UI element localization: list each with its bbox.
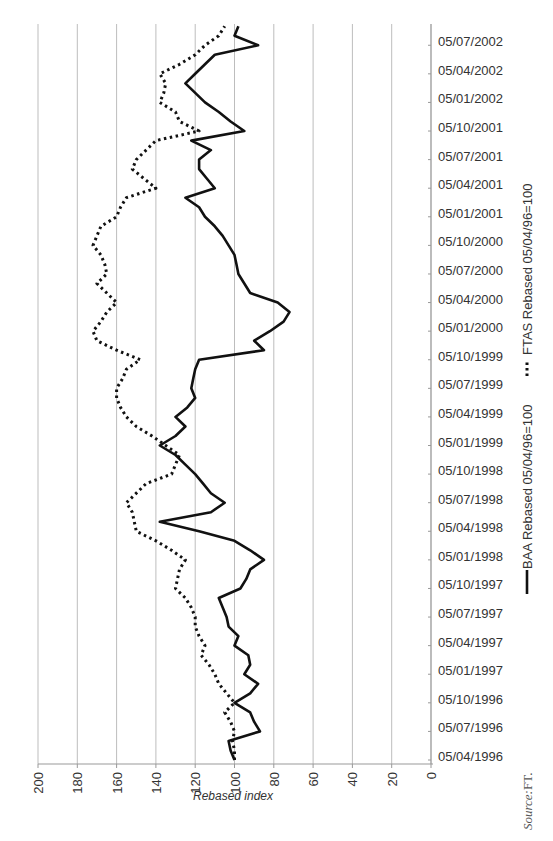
date-tick-label: 05/07/1999 bbox=[438, 377, 503, 392]
value-tick-label: 200 bbox=[31, 772, 46, 794]
date-tick-label: 05/01/1998 bbox=[438, 549, 503, 564]
date-axis-ticks: 05/04/199605/07/199605/10/199605/01/1997… bbox=[428, 34, 503, 764]
date-tick-label: 05/01/1997 bbox=[438, 663, 503, 678]
date-tick-label: 05/10/1997 bbox=[438, 577, 503, 592]
value-axis-title: Rebased index bbox=[193, 789, 274, 803]
rotated-line-chart: 020406080100120140160180200 05/04/199605… bbox=[0, 0, 553, 841]
date-tick-label: 05/01/2002 bbox=[438, 91, 503, 106]
date-tick-label: 05/07/1998 bbox=[438, 492, 503, 507]
date-tick-label: 05/10/1996 bbox=[438, 692, 503, 707]
date-tick-label: 05/07/2000 bbox=[438, 263, 503, 278]
date-tick-label: 05/04/2000 bbox=[438, 292, 503, 307]
date-tick-label: 05/07/1997 bbox=[438, 606, 503, 621]
source-label: Source: bbox=[520, 790, 535, 830]
value-tick-label: 80 bbox=[267, 772, 282, 786]
value-tick-label: 0 bbox=[424, 772, 439, 779]
source-value: FT. bbox=[520, 773, 535, 790]
date-tick-label: 05/07/2001 bbox=[438, 149, 503, 164]
date-tick-label: 05/01/2000 bbox=[438, 320, 503, 335]
date-tick-label: 05/04/1997 bbox=[438, 635, 503, 650]
legend-ftas-label: FTAS Rebased 05/04/96=100 bbox=[520, 184, 535, 355]
value-tick-label: 140 bbox=[149, 772, 164, 794]
date-tick-label: 05/07/2002 bbox=[438, 34, 503, 49]
value-tick-label: 20 bbox=[385, 772, 400, 786]
date-tick-label: 05/04/2002 bbox=[438, 63, 503, 78]
legend: BAA Rebased 05/04/96=100 FTAS Rebased 05… bbox=[520, 184, 535, 594]
source-note: Source: FT. bbox=[520, 773, 535, 830]
date-tick-label: 05/01/1999 bbox=[438, 435, 503, 450]
gridlines bbox=[38, 24, 431, 764]
value-tick-label: 160 bbox=[110, 772, 125, 794]
date-tick-label: 05/10/1999 bbox=[438, 349, 503, 364]
baa-series-line bbox=[160, 26, 290, 760]
date-tick-label: 05/04/1999 bbox=[438, 406, 503, 421]
date-tick-label: 05/10/2000 bbox=[438, 234, 503, 249]
value-tick-label: 60 bbox=[306, 772, 321, 786]
value-tick-label: 40 bbox=[345, 772, 360, 786]
date-tick-label: 05/04/1998 bbox=[438, 520, 503, 535]
plot-area-border bbox=[38, 24, 433, 764]
date-tick-label: 05/07/1996 bbox=[438, 720, 503, 735]
date-tick-label: 05/10/2001 bbox=[438, 120, 503, 135]
date-tick-label: 05/04/1996 bbox=[438, 749, 503, 764]
date-tick-label: 05/01/2001 bbox=[438, 206, 503, 221]
date-tick-label: 05/04/2001 bbox=[438, 177, 503, 192]
date-tick-label: 05/10/1998 bbox=[438, 463, 503, 478]
legend-baa-label: BAA Rebased 05/04/96=100 bbox=[520, 405, 535, 569]
value-tick-label: 180 bbox=[70, 772, 85, 794]
